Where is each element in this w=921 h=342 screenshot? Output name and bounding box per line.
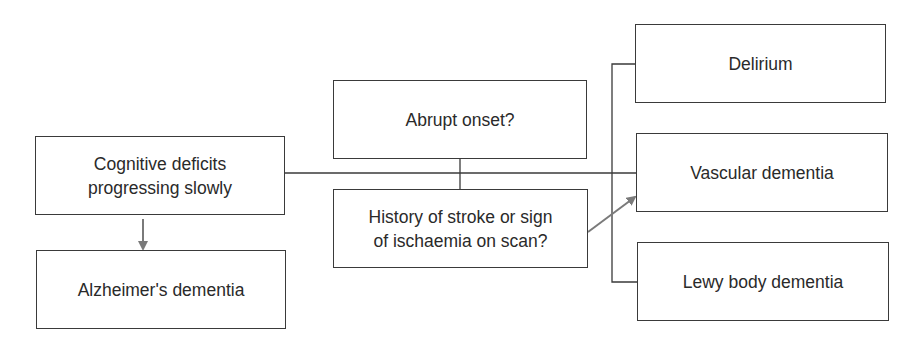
node-cognitive-deficits: Cognitive deficits progressing slowly [35,136,285,215]
node-alzheimers-dementia: Alzheimer's dementia [36,250,286,329]
node-alzheimers-label: Alzheimer's dementia [78,278,245,302]
node-abrupt-onset: Abrupt onset? [333,80,587,159]
node-delirium-label: Delirium [728,52,792,76]
node-history-line1: History of stroke or sign [369,205,553,229]
node-vascular-dementia: Vascular dementia [636,133,888,212]
node-cognitive-line2: progressing slowly [88,176,232,200]
node-history-of-stroke: History of stroke or sign of ischaemia o… [333,189,588,268]
node-delirium: Delirium [635,24,886,103]
node-abrupt-label: Abrupt onset? [406,108,515,132]
node-lewy-body-dementia: Lewy body dementia [637,242,889,321]
node-history-line2: of ischaemia on scan? [369,229,553,253]
node-cognitive-line1: Cognitive deficits [88,152,232,176]
node-lewy-label: Lewy body dementia [683,270,844,294]
node-vascular-label: Vascular dementia [690,161,834,185]
